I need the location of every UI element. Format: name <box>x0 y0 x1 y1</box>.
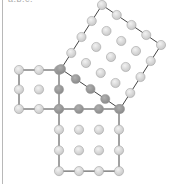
medium-square-dot <box>114 125 123 134</box>
medium-square-dot <box>54 146 63 155</box>
large-square-dot <box>77 32 86 41</box>
medium-square-dot <box>94 104 103 113</box>
large-square-dot <box>136 72 145 81</box>
small-square-dot <box>34 104 43 113</box>
medium-square-dot <box>114 167 123 176</box>
large-square-dot <box>126 88 135 97</box>
large-square-dot <box>56 64 65 73</box>
medium-square-dot <box>54 125 63 134</box>
medium-square-dot <box>114 146 123 155</box>
large-square-dot <box>127 20 136 29</box>
large-square-dot <box>87 16 96 25</box>
large-square-dot <box>102 26 111 35</box>
medium-square-dot <box>74 125 83 134</box>
large-square-dot <box>115 104 124 113</box>
large-square-dot <box>71 74 80 83</box>
small-square-dot <box>14 104 23 113</box>
large-square-dot <box>111 78 120 87</box>
large-square-dot <box>86 84 95 93</box>
medium-square-dot <box>74 167 83 176</box>
small-square-dot <box>14 85 23 94</box>
small-square-dot <box>34 85 43 94</box>
medium-square-dot <box>54 167 63 176</box>
medium-square-dot <box>74 104 83 113</box>
small-square-dot <box>34 65 43 74</box>
large-square-dot <box>131 46 140 55</box>
large-square-dot <box>96 68 105 77</box>
medium-square-dot <box>94 167 103 176</box>
large-square-dot <box>106 52 115 61</box>
large-square-dot <box>142 30 151 39</box>
large-square-dot <box>117 36 126 45</box>
large-square-dot <box>67 48 76 57</box>
medium-square-dot <box>74 146 83 155</box>
medium-square-dot <box>54 104 63 113</box>
large-square-dot <box>101 94 110 103</box>
medium-square-dot <box>94 146 103 155</box>
large-square-dot <box>97 0 106 9</box>
large-square-dot <box>121 62 130 71</box>
medium-square-outline <box>59 109 119 171</box>
large-square-dot <box>92 42 101 51</box>
large-square-dot <box>81 58 90 67</box>
large-square-dot <box>112 10 121 19</box>
medium-square-dot <box>94 125 103 134</box>
small-square-dot <box>54 85 63 94</box>
large-square-dot <box>146 56 155 65</box>
small-square-dot <box>14 65 23 74</box>
large-square-dot <box>156 40 165 49</box>
pythagoras-dot-diagram <box>0 0 173 184</box>
